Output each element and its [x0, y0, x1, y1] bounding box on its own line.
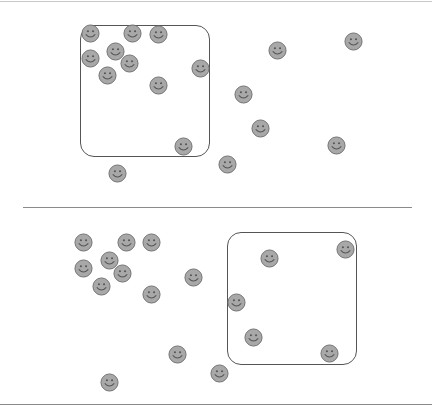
- smiley-face-icon: [227, 293, 246, 312]
- smiley-face-icon: [149, 25, 168, 44]
- diagram-canvas: [0, 0, 432, 411]
- middle-divider-line: [23, 207, 412, 208]
- smiley-face-icon: [100, 373, 119, 392]
- smiley-face-icon: [327, 136, 346, 155]
- smiley-face-icon: [117, 233, 136, 252]
- smiley-face-icon: [142, 233, 161, 252]
- smiley-face-icon: [218, 155, 237, 174]
- smiley-face-icon: [120, 54, 139, 73]
- smiley-face-icon: [268, 41, 287, 60]
- smiley-face-icon: [108, 164, 127, 183]
- smiley-face-icon: [244, 328, 263, 347]
- smiley-face-icon: [98, 66, 117, 85]
- smiley-face-icon: [81, 24, 100, 43]
- smiley-face-icon: [142, 285, 161, 304]
- smiley-face-icon: [184, 268, 203, 287]
- smiley-face-icon: [168, 345, 187, 364]
- smiley-face-icon: [210, 364, 229, 383]
- smiley-face-icon: [123, 24, 142, 43]
- smiley-face-icon: [74, 233, 93, 252]
- smiley-face-icon: [174, 137, 193, 156]
- smiley-face-icon: [74, 259, 93, 278]
- smiley-face-icon: [336, 240, 355, 259]
- smiley-face-icon: [320, 344, 339, 363]
- smiley-face-icon: [260, 249, 279, 268]
- smiley-face-icon: [92, 277, 111, 296]
- smiley-face-icon: [234, 85, 253, 104]
- smiley-face-icon: [191, 59, 210, 78]
- top-border-line: [0, 1, 432, 2]
- bottom-border-line: [0, 404, 432, 405]
- smiley-face-icon: [113, 264, 132, 283]
- smiley-face-icon: [344, 32, 363, 51]
- smiley-face-icon: [149, 76, 168, 95]
- smiley-face-icon: [251, 119, 270, 138]
